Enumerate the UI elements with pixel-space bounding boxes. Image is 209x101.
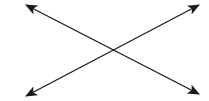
diagram-canvas: [0, 0, 209, 101]
intersecting-arrows-diagram: [0, 0, 209, 101]
